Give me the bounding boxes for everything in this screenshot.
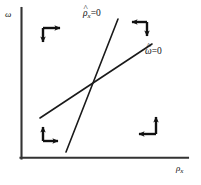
y-axis-label-text: ω xyxy=(5,9,11,19)
arrow-pair-bottom-right xyxy=(139,117,156,134)
omega-equation-text: =0 xyxy=(152,46,162,56)
arrow-pair-top-right xyxy=(132,22,147,36)
rho-x-hat-nullcline-label: ^ρx=0 xyxy=(83,9,101,20)
diagram-canvas xyxy=(0,0,201,185)
y-axis-label: ω xyxy=(5,10,11,19)
omega-hat-symbol: ^ω xyxy=(145,47,152,57)
phase-diagram-figure: ω ρx ^ρx=0 ^ω=0 xyxy=(0,0,201,185)
omega-hat-nullcline-line xyxy=(40,44,152,118)
rho-hat-symbol: ^ρ xyxy=(83,9,88,19)
x-axis-label: ρx xyxy=(176,164,183,175)
hat-accent-icon: ^ xyxy=(146,42,150,51)
hat-accent-icon: ^ xyxy=(83,4,87,13)
axis-lines xyxy=(21,8,189,159)
rho-equation-text: =0 xyxy=(91,8,101,18)
x-axis-label-subscript: x xyxy=(180,167,183,175)
arrow-pair-top-left xyxy=(43,28,60,42)
omega-hat-nullcline-label: ^ω=0 xyxy=(145,47,162,57)
rho-x-hat-nullcline-line xyxy=(66,19,118,152)
arrow-pair-bottom-left xyxy=(43,127,58,141)
